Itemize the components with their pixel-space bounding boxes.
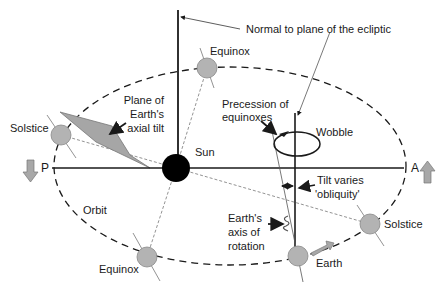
tilt-plane-label-3: axial tilt	[108, 122, 164, 135]
precession-label-2: equinoxes	[222, 111, 272, 124]
orbit-label: Orbit	[83, 204, 107, 217]
planet-solstice-right	[357, 205, 384, 246]
aphelion-label: A	[411, 162, 419, 175]
normal-label: Normal to plane of the ecliptic	[246, 23, 391, 36]
normal-to-earth-pointer	[298, 32, 330, 115]
equinox-top-label: Equinox	[210, 45, 250, 58]
perihelion-down-arrow	[23, 160, 38, 182]
axis-label-3: rotation	[228, 240, 265, 253]
rotation-curl-icon	[283, 216, 289, 231]
tilt-varies-label-2: 'obliquity'	[315, 188, 360, 201]
wobble-label: Wobble	[316, 126, 353, 139]
sun-circle	[162, 154, 190, 182]
tilt-plane-label-2: Earth's	[108, 108, 164, 121]
axis-label-1: Earth's	[228, 212, 262, 225]
precession-label-1: Precession of	[222, 98, 289, 111]
aphelion-up-arrow	[420, 161, 435, 183]
equinox-bottom-label: Equinox	[99, 263, 139, 276]
wobble-ellipse	[274, 132, 320, 156]
axis-label-2: axis of	[228, 226, 260, 239]
diagram-canvas	[0, 0, 442, 288]
planet-earth	[288, 246, 308, 266]
earth-label: Earth	[316, 257, 342, 270]
perihelion-label: P	[41, 162, 49, 175]
tilt-plane-label-1: Plane of	[108, 94, 164, 107]
tilt-varies-label-1: Tilt varies	[317, 174, 364, 187]
earth-motion-arrow	[311, 241, 334, 256]
solstice-left-label: Solstice	[10, 122, 49, 135]
sun-label: Sun	[195, 146, 215, 159]
tilt-label-pointer	[299, 185, 315, 188]
solstice-right-label: Solstice	[384, 218, 423, 231]
normal-label-pointer	[181, 17, 240, 29]
